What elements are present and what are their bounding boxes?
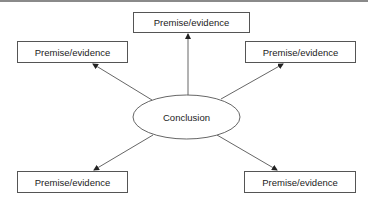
arrow-to-lower-right (217, 135, 277, 170)
arrow-to-upper-right (221, 64, 283, 99)
arrow-to-lower-left (94, 135, 153, 170)
premise-box-upper-left: Premise/evidence (17, 41, 128, 63)
premise-box-upper-right: Premise/evidence (245, 41, 356, 63)
premise-box-top: Premise/evidence (133, 12, 250, 33)
premise-box-lower-right: Premise/evidence (244, 171, 356, 193)
premise-box-lower-left: Premise/evidence (17, 171, 128, 193)
conclusion-label: Conclusion (133, 95, 240, 139)
